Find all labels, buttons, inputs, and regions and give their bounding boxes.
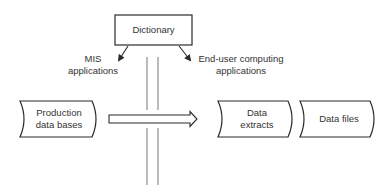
diagram-canvas: [0, 0, 390, 190]
hollow-flow-arrow: [109, 112, 197, 127]
data-extracts-label: Data extracts: [222, 107, 292, 131]
end-user-computing-applications-label: End-user computing applications: [191, 53, 291, 77]
mis-applications-label: MIS applications: [58, 53, 128, 77]
production-data-bases-label: Production data bases: [24, 107, 94, 131]
arrow-to-end-user: [179, 46, 190, 60]
dictionary-label: Dictionary: [115, 24, 192, 36]
data-files-label: Data files: [304, 113, 374, 125]
